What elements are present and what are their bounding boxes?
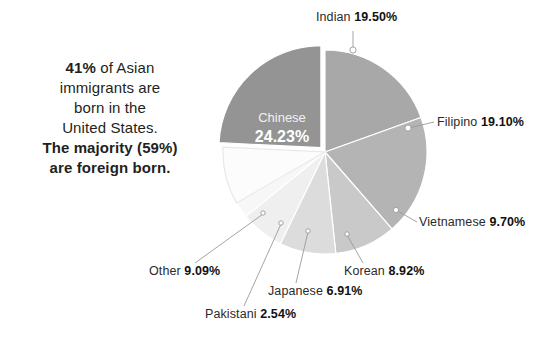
leader-dot-vietnamese bbox=[393, 207, 398, 212]
slice-label-chinese-value: 24.23% bbox=[239, 127, 325, 146]
pie-label-pakistani-value: 2.54% bbox=[260, 307, 296, 321]
pie-label-vietnamese-name: Vietnamese bbox=[419, 215, 486, 229]
pie-label-other: Other 9.09% bbox=[149, 264, 220, 278]
leader-dot-filipino bbox=[405, 125, 411, 131]
pie-label-japanese-name: Japanese bbox=[268, 284, 323, 298]
leader-dot-other bbox=[261, 211, 265, 215]
leader-dot-pakistani bbox=[279, 221, 283, 225]
pie-label-korean-name: Korean bbox=[344, 264, 385, 278]
asian-immigrant-origin-infographic: 41% of Asian immigrants are born in the … bbox=[0, 0, 554, 353]
pie-label-other-value: 9.09% bbox=[184, 264, 220, 278]
pie-label-korean-value: 8.92% bbox=[389, 264, 425, 278]
pie-chart bbox=[0, 0, 554, 353]
pie-label-indian: Indian 19.50% bbox=[316, 10, 397, 24]
slice-label-chinese: Chinese 24.23% bbox=[239, 110, 325, 146]
pie-label-filipino-name: Filipino bbox=[437, 115, 477, 129]
pie-label-pakistani: Pakistani 2.54% bbox=[205, 307, 296, 321]
pie-label-pakistani-name: Pakistani bbox=[205, 307, 257, 321]
leader-line-other bbox=[195, 214, 263, 263]
pie-label-vietnamese-value: 9.70% bbox=[489, 215, 525, 229]
pie-label-indian-name: Indian bbox=[316, 10, 351, 24]
pie-label-vietnamese: Vietnamese 9.70% bbox=[419, 215, 525, 229]
leader-dot-korean bbox=[345, 232, 349, 236]
leader-dot-japanese bbox=[306, 229, 310, 233]
pie-label-japanese-value: 6.91% bbox=[327, 284, 363, 298]
pie-label-filipino-value: 19.10% bbox=[481, 115, 524, 129]
pie-label-japanese: Japanese 6.91% bbox=[268, 284, 363, 298]
slice-label-chinese-name: Chinese bbox=[239, 110, 325, 126]
pie-label-filipino: Filipino 19.10% bbox=[437, 115, 524, 129]
pie-label-korean: Korean 8.92% bbox=[344, 264, 424, 278]
pie-label-other-name: Other bbox=[149, 264, 181, 278]
leader-dot-indian bbox=[350, 47, 356, 53]
pie-label-indian-value: 19.50% bbox=[354, 10, 397, 24]
